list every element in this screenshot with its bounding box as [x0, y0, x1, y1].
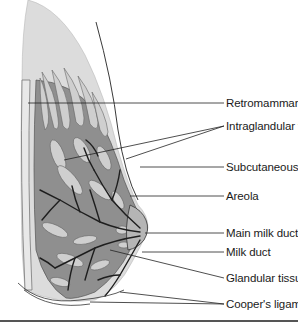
label-subcutaneous-fat: Subcutaneous fat	[226, 161, 298, 174]
label-main-milk-duct: Main milk duct	[226, 227, 298, 240]
label-areola: Areola	[226, 190, 259, 203]
label-glandular-tissue: Glandular tissue	[226, 272, 298, 285]
bottom-divider	[0, 320, 298, 322]
label-intraglandular-fat: Intraglandular fat	[226, 120, 298, 133]
label-retromammary-fat: Retromammary fat	[226, 97, 298, 110]
label-milk-duct: Milk duct	[226, 246, 270, 259]
nipple-areola	[126, 205, 147, 250]
label-coopers-ligaments: Cooper's ligaments	[226, 298, 298, 311]
